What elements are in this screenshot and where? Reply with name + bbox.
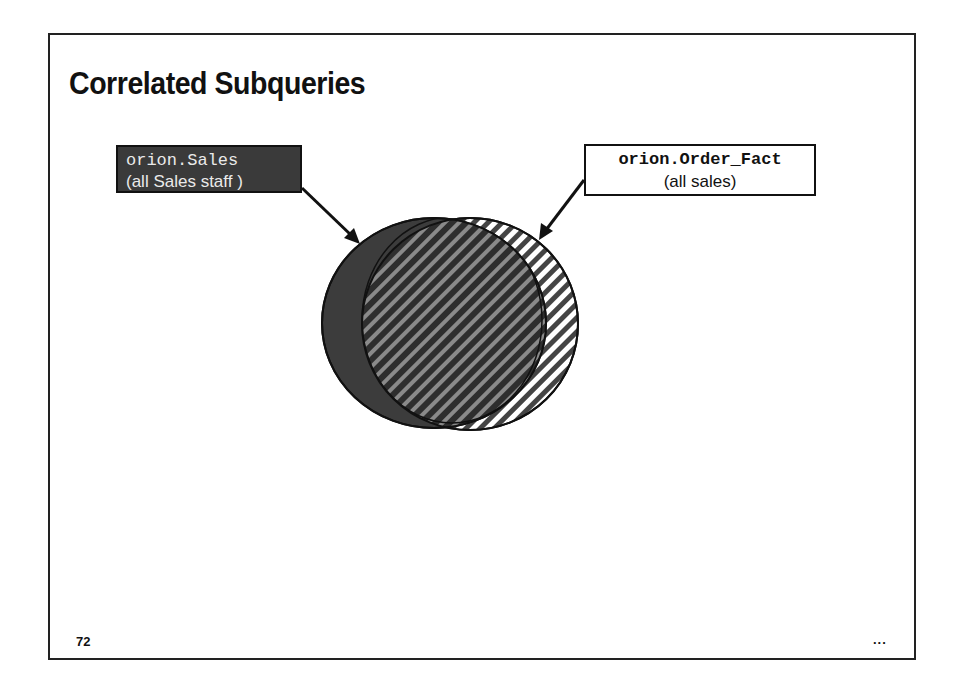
sales-arrow [302, 188, 360, 244]
sales-table-description: (all Sales staff ) [126, 171, 292, 193]
page-number: 72 [76, 634, 90, 649]
order-fact-arrow [539, 180, 584, 240]
sales-table-name: orion.Sales [126, 150, 292, 171]
sales-table-label: orion.Sales (all Sales staff ) [116, 145, 302, 193]
order-fact-table-name: orion.Order_Fact [586, 148, 814, 171]
venn-diagram [0, 0, 972, 698]
order-fact-table-description: (all sales) [586, 171, 814, 193]
order-fact-table-label: orion.Order_Fact (all sales) [584, 144, 816, 196]
continuation-marker: ... [873, 632, 887, 647]
